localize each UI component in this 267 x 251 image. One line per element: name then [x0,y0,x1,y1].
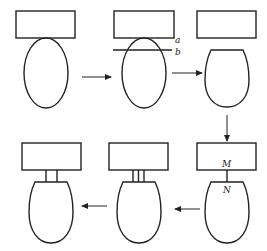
label-N: N [222,185,232,195]
step-3-figure [197,11,256,107]
step-6-body [29,182,73,243]
label-M: M [221,159,232,169]
step-4-figure: M N [197,143,256,243]
step-6-figure [22,143,81,243]
step-5-block [109,143,168,170]
step-1-body [24,38,68,108]
step-3-block [197,11,256,38]
step-2-figure: a b [113,11,181,108]
step-3-truncated-body [205,50,249,107]
label-a: a [175,35,180,45]
step-2-block [114,11,174,38]
step-1-figure [16,11,75,108]
step-5-figure [109,143,168,243]
process-diagram: a b M N [0,0,267,251]
step-1-block [16,11,75,38]
step-6-block [22,143,81,170]
label-b: b [175,47,181,57]
step-5-body [117,182,161,243]
step-2-body [122,38,166,108]
